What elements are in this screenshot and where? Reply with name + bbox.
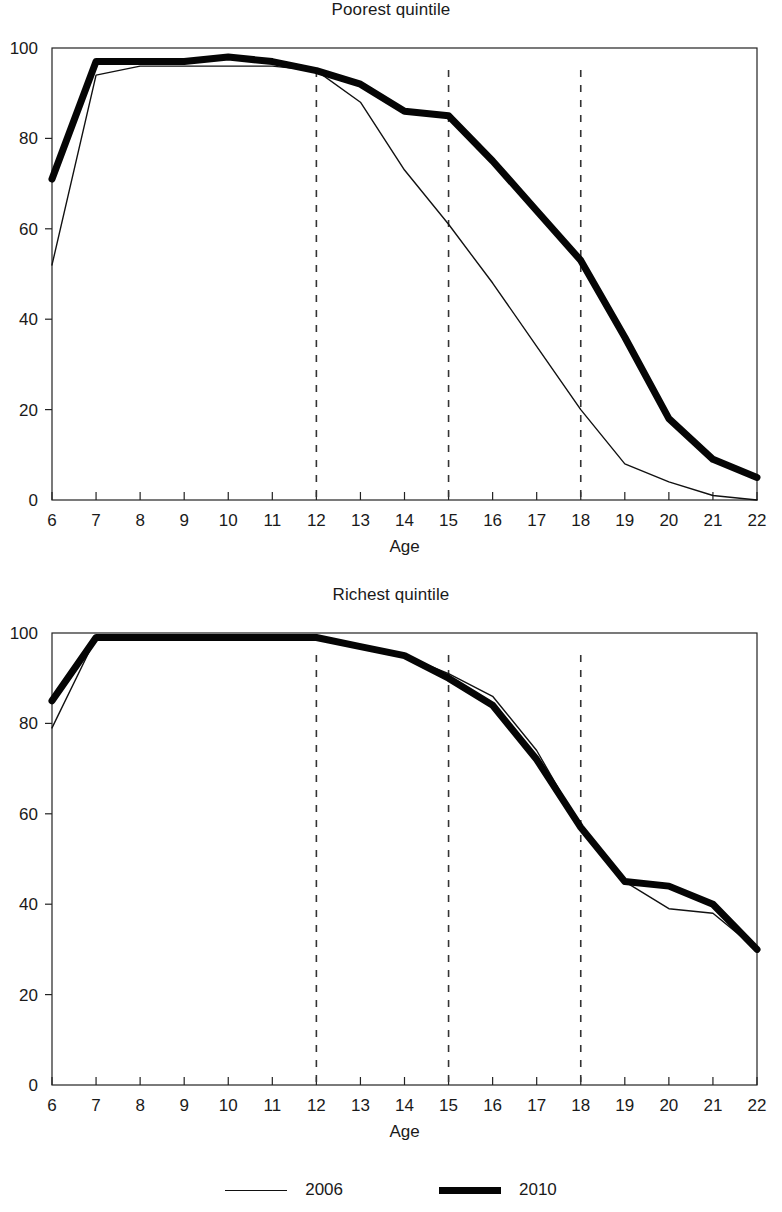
x-tick-label: 14 bbox=[395, 511, 414, 530]
chart-panel-poorest: Poorest quintile 02040608010067891011121… bbox=[0, 0, 782, 580]
plot-frame bbox=[52, 633, 757, 1085]
x-tick-label: 16 bbox=[483, 1096, 502, 1115]
series-line-2010 bbox=[52, 638, 757, 950]
x-tick-label: 18 bbox=[571, 1096, 590, 1115]
x-tick-label: 9 bbox=[179, 1096, 188, 1115]
legend-line-thick-icon bbox=[439, 1187, 501, 1194]
chart-panel-richest: Richest quintile 02040608010067891011121… bbox=[0, 585, 782, 1165]
x-tick-label: 22 bbox=[748, 1096, 767, 1115]
legend-line-thin-icon bbox=[225, 1190, 287, 1191]
legend-item-2010: 2010 bbox=[439, 1180, 557, 1200]
y-tick-label: 0 bbox=[29, 491, 38, 510]
y-tick-label: 40 bbox=[19, 310, 38, 329]
chart-legend: 2006 2010 bbox=[0, 1168, 782, 1212]
y-tick-label: 60 bbox=[19, 220, 38, 239]
y-tick-label: 20 bbox=[19, 986, 38, 1005]
x-tick-label: 19 bbox=[615, 1096, 634, 1115]
x-tick-label: 21 bbox=[703, 511, 722, 530]
x-tick-label: 9 bbox=[179, 511, 188, 530]
x-tick-label: 17 bbox=[527, 511, 546, 530]
x-tick-label: 20 bbox=[659, 511, 678, 530]
x-tick-label: 13 bbox=[351, 1096, 370, 1115]
y-tick-label: 20 bbox=[19, 401, 38, 420]
x-tick-label: 22 bbox=[748, 511, 767, 530]
x-tick-label: 13 bbox=[351, 511, 370, 530]
x-axis-title: Age bbox=[389, 1122, 419, 1141]
x-tick-label: 14 bbox=[395, 1096, 414, 1115]
plot-area-poorest: 0204060801006789101112131415161718192021… bbox=[0, 0, 782, 580]
plot-area-richest: 0204060801006789101112131415161718192021… bbox=[0, 585, 782, 1165]
y-tick-label: 100 bbox=[10, 39, 38, 58]
y-tick-label: 0 bbox=[29, 1076, 38, 1095]
legend-item-2006: 2006 bbox=[225, 1180, 343, 1200]
x-tick-label: 15 bbox=[439, 1096, 458, 1115]
x-tick-label: 17 bbox=[527, 1096, 546, 1115]
y-tick-label: 100 bbox=[10, 624, 38, 643]
y-tick-label: 80 bbox=[19, 714, 38, 733]
x-tick-label: 16 bbox=[483, 511, 502, 530]
x-tick-label: 12 bbox=[307, 511, 326, 530]
x-tick-label: 12 bbox=[307, 1096, 326, 1115]
legend-label-2006: 2006 bbox=[305, 1180, 343, 1200]
y-tick-label: 60 bbox=[19, 805, 38, 824]
x-tick-label: 7 bbox=[91, 511, 100, 530]
x-tick-label: 20 bbox=[659, 1096, 678, 1115]
x-tick-label: 10 bbox=[219, 511, 238, 530]
x-tick-label: 6 bbox=[47, 511, 56, 530]
plot-frame bbox=[52, 48, 757, 500]
series-line-2006 bbox=[52, 638, 757, 950]
series-line-2010 bbox=[52, 57, 757, 477]
y-tick-label: 80 bbox=[19, 129, 38, 148]
x-tick-label: 8 bbox=[135, 511, 144, 530]
x-tick-label: 8 bbox=[135, 1096, 144, 1115]
x-tick-label: 21 bbox=[703, 1096, 722, 1115]
x-tick-label: 7 bbox=[91, 1096, 100, 1115]
figure-page: Poorest quintile 02040608010067891011121… bbox=[0, 0, 782, 1212]
y-tick-label: 40 bbox=[19, 895, 38, 914]
x-tick-label: 11 bbox=[263, 1096, 281, 1115]
x-tick-label: 11 bbox=[263, 511, 281, 530]
x-tick-label: 19 bbox=[615, 511, 634, 530]
x-axis-title: Age bbox=[389, 537, 419, 556]
x-tick-label: 18 bbox=[571, 511, 590, 530]
x-tick-label: 10 bbox=[219, 1096, 238, 1115]
series-line-2006 bbox=[52, 66, 757, 500]
x-tick-label: 15 bbox=[439, 511, 458, 530]
x-tick-label: 6 bbox=[47, 1096, 56, 1115]
legend-label-2010: 2010 bbox=[519, 1180, 557, 1200]
